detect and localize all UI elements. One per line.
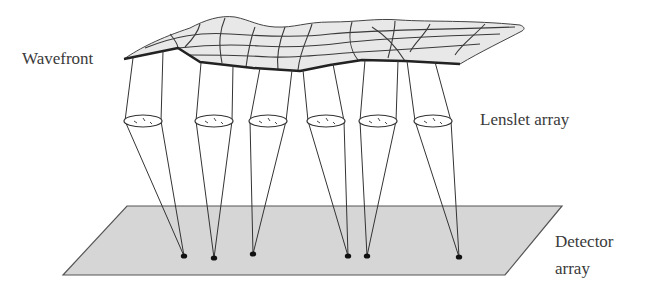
detector-label-line2: array (555, 255, 614, 282)
diagram-canvas (0, 0, 651, 296)
focal-spot (364, 253, 370, 258)
focal-spot (211, 255, 217, 260)
lenslet-5 (359, 115, 397, 127)
lenslet-array-label: Lenslet array (480, 110, 569, 130)
detector-array-label: Detector array (555, 228, 614, 282)
lenslet-4 (307, 115, 345, 127)
lenslet-2 (195, 115, 233, 127)
focal-spot (250, 251, 256, 256)
focal-spot (345, 253, 351, 258)
detector-label-line1: Detector (555, 228, 614, 255)
lenslet-3 (249, 115, 287, 127)
lenslet-1 (124, 115, 162, 127)
focal-spot (181, 253, 187, 258)
wavefront-surface (124, 17, 524, 71)
wavefront-label: Wavefront (22, 49, 93, 69)
lenslet-array (124, 115, 452, 127)
lenslet-6 (414, 115, 452, 127)
focal-spot (456, 254, 462, 259)
detector-array (63, 206, 562, 275)
wavefront-sensor-diagram: Wavefront Lenslet array Detector array (0, 0, 651, 296)
